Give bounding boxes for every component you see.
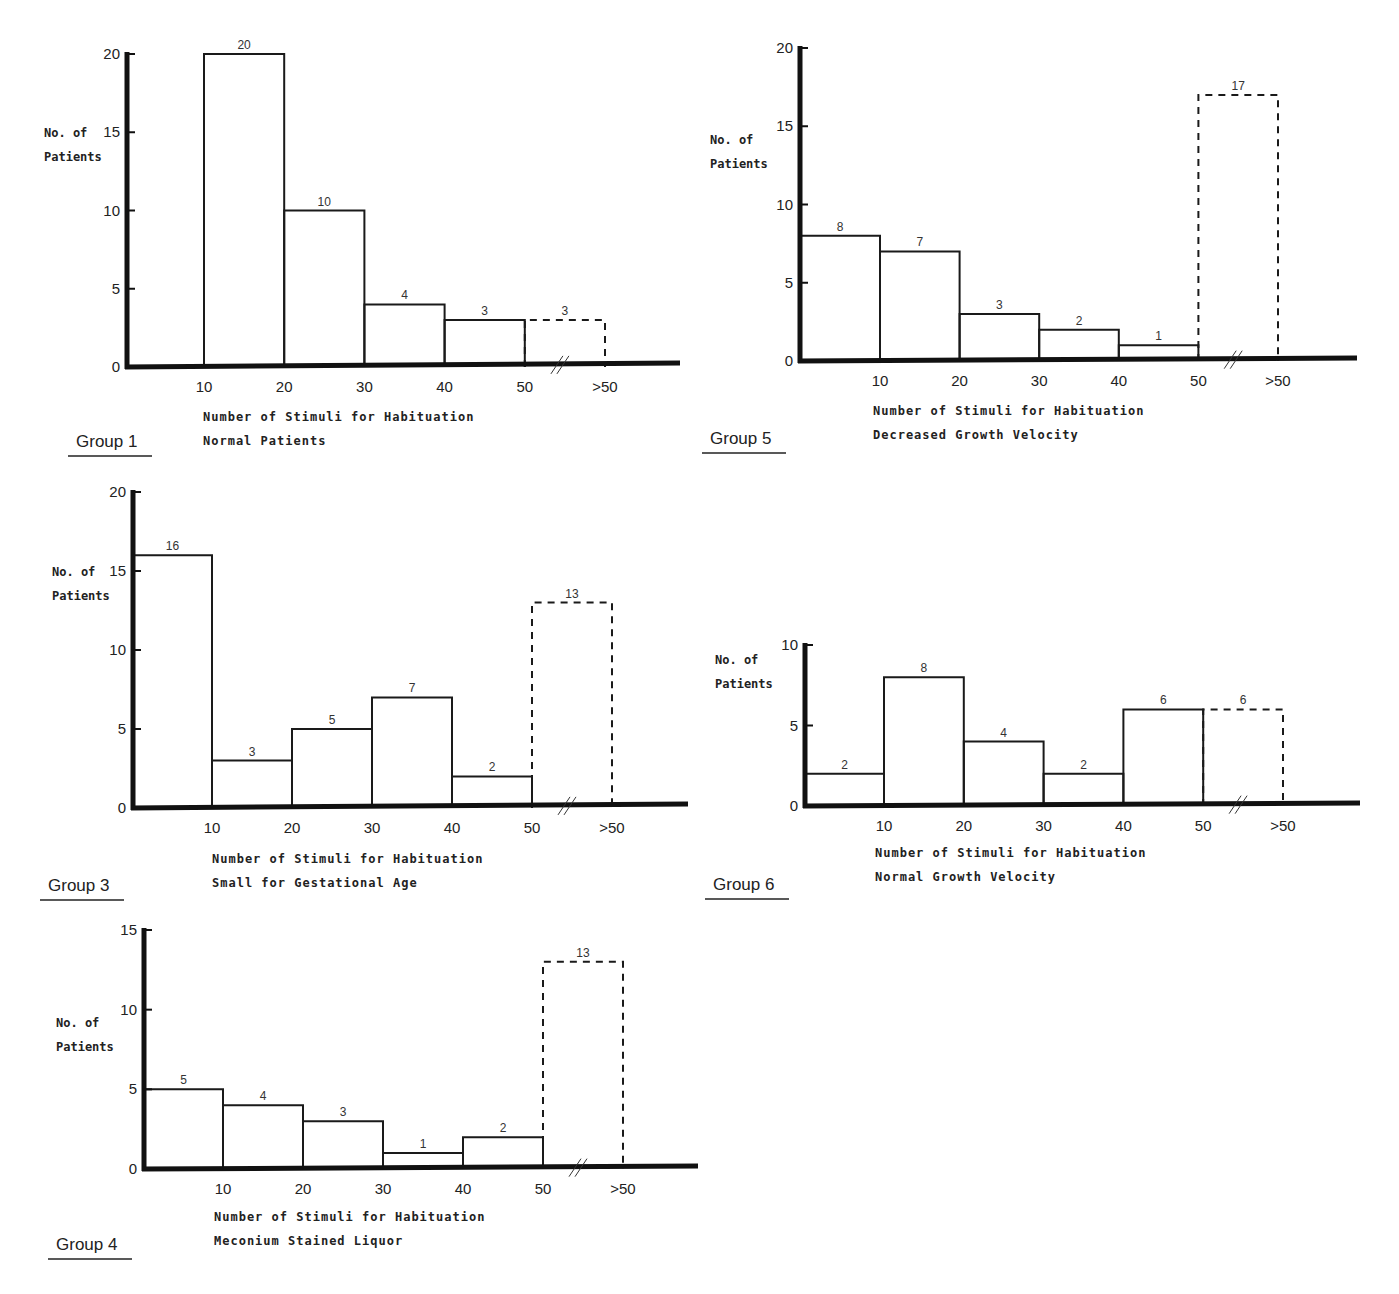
bar-value-label: 8 <box>837 220 844 234</box>
group-subtitle: Normal Patients <box>203 434 326 448</box>
bar-value-label: 4 <box>401 288 408 302</box>
x-tick-label: 40 <box>455 1180 472 1197</box>
y-tick-label: 10 <box>776 196 793 213</box>
group-subtitle: Normal Growth Velocity <box>875 870 1056 884</box>
x-axis <box>803 803 1360 806</box>
x-axis-label: Number of Stimuli for Habituation <box>873 404 1144 418</box>
y-tick-label: 0 <box>785 352 793 369</box>
bar <box>964 742 1044 806</box>
y-tick-label: 10 <box>120 1001 137 1018</box>
y-tick-label: 10 <box>103 202 120 219</box>
y-tick-label: 5 <box>790 717 798 734</box>
x-tick-label: 20 <box>295 1180 312 1197</box>
x-tick-label: 50 <box>516 378 533 395</box>
bar-value-label: 4 <box>1000 726 1007 740</box>
chart-group1: 2010433051015201020304050>50No. ofPatien… <box>44 38 680 456</box>
x-tick-label: 50 <box>535 1180 552 1197</box>
x-axis <box>131 804 688 808</box>
y-tick-label: 15 <box>103 123 120 140</box>
bar-value-label: 1 <box>420 1137 427 1151</box>
x-axis-label: Number of Stimuli for Habituation <box>212 852 483 866</box>
y-tick-label: 0 <box>129 1160 137 1177</box>
bar-value-label: 2 <box>1076 314 1083 328</box>
x-tick-label: 30 <box>364 819 381 836</box>
bar-value-label: 2 <box>489 760 496 774</box>
x-tick-label: 50 <box>1190 372 1207 389</box>
y-tick-label: 0 <box>112 358 120 375</box>
x-tick-label: >50 <box>1270 817 1295 834</box>
group-subtitle: Decreased Growth Velocity <box>873 428 1079 442</box>
bar-value-label: 5 <box>180 1073 187 1087</box>
y-axis-label-line1: No. of <box>56 1016 99 1030</box>
bar <box>212 761 292 808</box>
bar-value-label: 6 <box>1240 693 1247 707</box>
group-subtitle: Small for Gestational Age <box>212 876 418 890</box>
y-axis-label-line2: Patients <box>715 677 773 691</box>
bar-value-label: 2 <box>500 1121 507 1135</box>
y-axis-label-line1: No. of <box>44 126 87 140</box>
x-tick-label: 20 <box>951 372 968 389</box>
bar-over-50-dashed <box>1203 709 1283 806</box>
group-title: Group 1 <box>76 432 137 451</box>
x-tick-label: 10 <box>204 819 221 836</box>
x-tick-label: 30 <box>1031 372 1048 389</box>
chart-group3: 16357213051015201020304050>50No. ofPatie… <box>40 483 688 900</box>
x-tick-label: 40 <box>436 378 453 395</box>
bar <box>960 314 1040 361</box>
y-tick-label: 15 <box>776 117 793 134</box>
x-axis <box>798 358 1357 361</box>
y-tick-label: 10 <box>109 641 126 658</box>
y-tick-label: 20 <box>776 39 793 56</box>
x-tick-label: 40 <box>1115 817 1132 834</box>
bar <box>284 211 364 368</box>
x-tick-label: 40 <box>444 819 461 836</box>
y-axis-label-line1: No. of <box>710 133 753 147</box>
bar <box>1044 774 1124 806</box>
x-tick-label: 20 <box>955 817 972 834</box>
bar-value-label: 3 <box>481 304 488 318</box>
y-tick-label: 5 <box>129 1080 137 1097</box>
y-tick-label: 5 <box>118 720 126 737</box>
bar-value-label: 3 <box>340 1105 347 1119</box>
x-tick-label: 10 <box>872 372 889 389</box>
bar-over-50-dashed <box>525 320 605 367</box>
bar <box>1123 709 1203 806</box>
bar-value-label: 8 <box>921 661 928 675</box>
bar-value-label: 5 <box>329 713 336 727</box>
x-tick-label: 40 <box>1110 372 1127 389</box>
x-axis-label: Number of Stimuli for Habituation <box>203 410 474 424</box>
bar <box>364 304 444 367</box>
x-tick-label: >50 <box>599 819 624 836</box>
charts-canvas: 2010433051015201020304050>50No. ofPatien… <box>0 0 1399 1294</box>
bar-value-label: 6 <box>1160 693 1167 707</box>
group-title: Group 3 <box>48 876 109 895</box>
bar <box>463 1137 543 1169</box>
bar <box>144 1089 223 1169</box>
x-tick-label: 30 <box>356 378 373 395</box>
x-tick-label: 10 <box>215 1180 232 1197</box>
bar-value-label: 7 <box>409 681 416 695</box>
bar-value-label: 1 <box>1155 329 1162 343</box>
bar <box>292 729 372 808</box>
bar <box>223 1105 303 1169</box>
bar-value-label: 16 <box>166 539 180 553</box>
y-axis-label-line1: No. of <box>715 653 758 667</box>
bar-value-label: 3 <box>562 304 569 318</box>
bar-value-label: 17 <box>1232 79 1246 93</box>
bar-over-50-dashed <box>532 603 612 808</box>
x-tick-label: 20 <box>284 819 301 836</box>
x-tick-label: 50 <box>1195 817 1212 834</box>
bar-value-label: 4 <box>260 1089 267 1103</box>
y-tick-label: 15 <box>120 921 137 938</box>
y-tick-label: 0 <box>118 799 126 816</box>
bar <box>372 697 452 808</box>
y-tick-label: 15 <box>109 562 126 579</box>
x-tick-label: 50 <box>524 819 541 836</box>
bar-value-label: 3 <box>249 745 256 759</box>
y-tick-label: 5 <box>112 280 120 297</box>
bar-value-label: 2 <box>841 758 848 772</box>
y-tick-label: 5 <box>785 274 793 291</box>
x-axis-label: Number of Stimuli for Habituation <box>214 1210 485 1224</box>
x-tick-label: >50 <box>1265 372 1290 389</box>
x-axis <box>125 363 680 367</box>
